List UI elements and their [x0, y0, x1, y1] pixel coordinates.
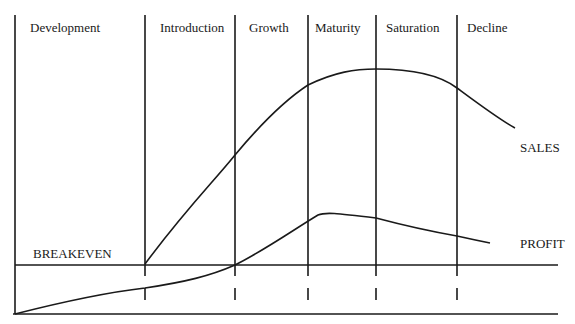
- profit-label: PROFIT: [520, 236, 565, 252]
- sales-curve: [145, 69, 515, 264]
- stage-label: Growth: [249, 20, 289, 36]
- stage-label: Development: [30, 20, 100, 36]
- breakeven-label: BREAKEVEN: [33, 246, 112, 262]
- profit-curve: [15, 213, 490, 314]
- stage-label: Introduction: [160, 20, 224, 36]
- product-life-cycle-diagram: [0, 0, 575, 324]
- stage-label: Saturation: [386, 20, 439, 36]
- stage-label: Maturity: [315, 20, 361, 36]
- stage-label: Decline: [467, 20, 507, 36]
- sales-label: SALES: [520, 140, 560, 156]
